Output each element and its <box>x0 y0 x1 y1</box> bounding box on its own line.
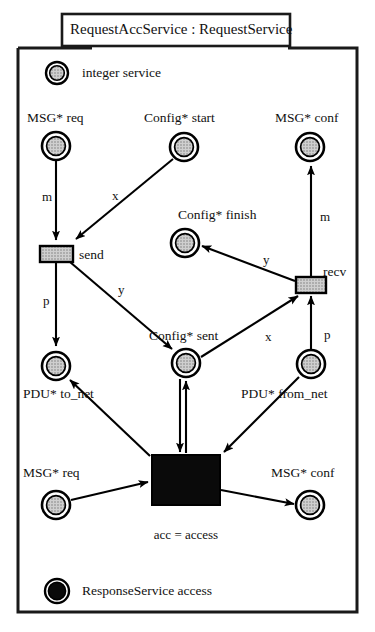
arc-label-m-left: m <box>42 190 52 203</box>
place-conf-top[interactable] <box>296 133 324 161</box>
transition-send[interactable] <box>40 246 73 262</box>
place-label-finish: Config* finish <box>178 208 256 222</box>
place-label-conf-top: MSG* conf <box>275 111 338 125</box>
legend-token-icon <box>46 62 68 84</box>
place-req-bottom[interactable] <box>42 491 70 519</box>
arc-start-to-send <box>76 159 173 239</box>
place-conf-bottom[interactable] <box>296 491 324 519</box>
place-req-top[interactable] <box>42 132 70 160</box>
page-title: RequestAccService : RequestService <box>70 22 282 37</box>
place-label-from-net: PDU* from_net <box>241 387 328 401</box>
place-to-net[interactable] <box>42 352 70 380</box>
legend-filled-token-icon <box>45 579 69 603</box>
substitution-transition-acc[interactable] <box>152 455 220 505</box>
place-label-start: Config* start <box>144 111 215 125</box>
transition-label-recv: recv <box>323 265 346 279</box>
arc-label-p-right: p <box>324 328 331 341</box>
arc-sent-to-recv <box>201 296 298 357</box>
place-label-req-bottom: MSG* req <box>23 466 80 480</box>
place-label-conf-bottom: MSG* conf <box>271 466 334 480</box>
place-label-to-net: PDU* to_net <box>23 387 94 401</box>
arc-acc-to-conf-bottom <box>221 490 294 504</box>
place-label-sent: Config* sent <box>149 329 218 343</box>
legend-item-access: ResponseService access <box>82 584 212 598</box>
place-sent[interactable] <box>172 349 200 377</box>
arc-label-m-right: m <box>320 210 330 223</box>
arc-label-p-left: p <box>43 294 50 307</box>
arc-label-x-sent: x <box>265 330 272 343</box>
arc-label-y-recv: y <box>263 253 270 266</box>
arc-label-y-send: y <box>118 283 125 296</box>
legend-item-service: integer service <box>82 66 161 80</box>
transition-label-send: send <box>79 248 104 262</box>
petri-net-canvas: RequestAccService : RequestService integ… <box>0 0 375 632</box>
place-start[interactable] <box>170 133 198 161</box>
place-from-net[interactable] <box>297 350 325 378</box>
place-label-req-top: MSG* req <box>27 111 84 125</box>
substitution-caption: acc = access <box>130 528 242 541</box>
place-finish[interactable] <box>171 229 199 257</box>
transition-recv[interactable] <box>296 277 326 293</box>
arc-req-bottom-to-acc <box>71 482 148 500</box>
arc-label-x-start: x <box>112 189 119 202</box>
arc-recv-to-finish <box>202 246 295 281</box>
